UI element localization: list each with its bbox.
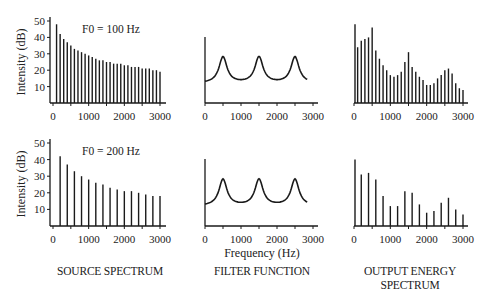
y-tick-label: 10 xyxy=(34,81,46,93)
filter-curve xyxy=(205,179,307,204)
y-tick-label: 20 xyxy=(34,187,46,199)
x-tick-label: 0 xyxy=(50,233,56,245)
x-tick-label: 0 xyxy=(202,233,208,245)
x-tick-label: 1000 xyxy=(78,110,101,122)
figure: 01000200030001020304050F0 = 100 Hz 01000… xyxy=(0,0,491,304)
filter-curve xyxy=(205,56,307,81)
caption-filter-function: FILTER FUNCTION xyxy=(192,264,332,278)
ylabel-top: Intensity (dB) xyxy=(14,29,28,96)
y-tick-label: 40 xyxy=(34,31,46,43)
x-tick-label: 2000 xyxy=(113,110,136,122)
caption-output-energy-spectrum: OUTPUT ENERGY SPECTRUM xyxy=(340,264,480,292)
y-tick-label: 10 xyxy=(34,203,46,215)
x-tick-label: 1000 xyxy=(78,233,101,245)
panel-filter-bottom: 0100020003000 xyxy=(202,159,324,245)
ylabel-bottom: Intensity (dB) xyxy=(14,151,28,218)
y-tick-label: 50 xyxy=(34,137,46,149)
shared-xlabel: Frequency (Hz) xyxy=(224,246,300,260)
x-tick-label: 1000 xyxy=(230,233,253,245)
x-tick-label: 3000 xyxy=(302,110,325,122)
x-tick-label: 0 xyxy=(351,110,357,122)
y-tick-label: 40 xyxy=(34,154,46,166)
panel-source-f0-100: 01000200030001020304050F0 = 100 Hz xyxy=(34,15,172,122)
x-tick-label: 2000 xyxy=(113,233,136,245)
x-tick-label: 0 xyxy=(202,110,208,122)
x-tick-label: 0 xyxy=(50,110,56,122)
caption-output-line1: OUTPUT ENERGY xyxy=(340,264,480,278)
x-tick-label: 2000 xyxy=(416,233,439,245)
x-tick-label: 3000 xyxy=(302,233,325,245)
f0-label: F0 = 200 Hz xyxy=(82,145,140,157)
x-tick-label: 0 xyxy=(351,233,357,245)
x-tick-label: 3000 xyxy=(452,110,475,122)
panel-output-f0-100: 0100020003000 xyxy=(351,24,474,122)
y-tick-label: 30 xyxy=(34,48,46,60)
x-tick-label: 3000 xyxy=(149,233,172,245)
y-tick-label: 30 xyxy=(34,170,46,182)
panel-source-f0-200: 01000200030001020304050F0 = 200 Hz xyxy=(34,137,172,245)
x-tick-label: 2000 xyxy=(266,233,289,245)
x-tick-label: 2000 xyxy=(416,110,439,122)
x-tick-label: 3000 xyxy=(452,233,475,245)
x-tick-label: 3000 xyxy=(149,110,172,122)
f0-label: F0 = 100 Hz xyxy=(82,23,140,35)
caption-source-spectrum: SOURCE SPECTRUM xyxy=(40,264,180,278)
y-tick-label: 20 xyxy=(34,64,46,76)
x-tick-label: 1000 xyxy=(379,233,402,245)
x-tick-label: 1000 xyxy=(230,110,253,122)
caption-output-line2: SPECTRUM xyxy=(340,278,480,292)
panel-output-f0-200: 0100020003000 xyxy=(351,160,474,245)
x-tick-label: 2000 xyxy=(266,110,289,122)
y-tick-label: 50 xyxy=(34,15,46,27)
panel-filter-top: 0100020003000 xyxy=(202,37,324,122)
x-tick-label: 1000 xyxy=(379,110,402,122)
